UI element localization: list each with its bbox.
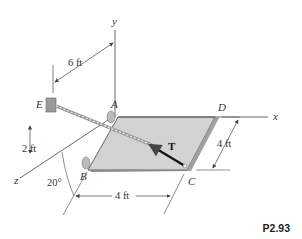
dim-2ft-label: 2 ft — [22, 143, 36, 154]
hinge-a — [107, 111, 115, 123]
x-axis-label: x — [272, 110, 278, 122]
ring-c — [183, 164, 187, 168]
force-t-label: T — [168, 140, 176, 152]
dim-bc-label: 4 ft — [115, 190, 129, 201]
problem-number: P2.93 — [263, 222, 290, 234]
point-a-label: A — [110, 98, 118, 110]
point-d-label: D — [217, 101, 226, 113]
dim-cd-label: 4 ft — [217, 138, 231, 149]
dim-6ft-line — [55, 43, 113, 82]
z-axis-label: z — [13, 174, 19, 186]
angle-label: 20° — [47, 177, 62, 188]
wall-support-e — [46, 98, 56, 112]
y-axis-label: y — [111, 15, 117, 27]
angle-arc — [62, 152, 74, 196]
hinge-b — [82, 157, 90, 169]
point-e-label: E — [35, 98, 43, 110]
point-b-label: B — [80, 170, 87, 182]
plate-cable-diagram: 6 ft E 2 ft T A D B C y x z 4 ft 4 ft 20… — [0, 0, 302, 239]
point-c-label: C — [188, 175, 196, 187]
plate — [88, 117, 219, 172]
dim-6ft-label: 6 ft — [68, 57, 82, 68]
